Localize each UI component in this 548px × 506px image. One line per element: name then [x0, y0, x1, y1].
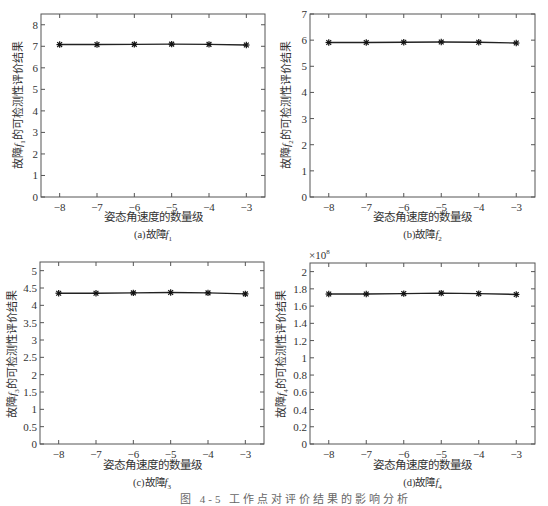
caption-d: (d)故障f4: [310, 474, 535, 491]
asterisk-marker: [513, 291, 519, 297]
y-tick-label: 1.8: [293, 283, 307, 295]
figure-caption: 图 4-5 工作点对评价结果的影响分析: [180, 490, 411, 506]
asterisk-marker: [438, 290, 444, 296]
y-tick-label: 0: [302, 438, 308, 450]
y-axis-label-d: 故障f4的可检测性评价结果: [272, 254, 290, 454]
y-tick-label: 0.2: [293, 421, 307, 433]
y-tick-label: 1.6: [293, 300, 307, 312]
asterisk-marker: [363, 291, 369, 297]
y-axis-exponent-d: ×108: [309, 248, 330, 261]
y-tick-label: 0.4: [293, 404, 307, 416]
y-tick-label: 1.2: [293, 335, 307, 347]
asterisk-marker: [401, 290, 407, 296]
y-tick-label: 0.6: [293, 386, 307, 398]
asterisk-marker: [326, 291, 332, 297]
x-axis-label-d: 姿态角速度的数量级: [310, 456, 535, 472]
y-tick-label: 1.4: [293, 317, 307, 329]
y-tick-label: 0.8: [293, 369, 307, 381]
axes-frame: [310, 263, 535, 444]
asterisk-marker: [476, 290, 482, 296]
y-tick-label: 1: [302, 352, 308, 364]
y-tick-label: 2: [302, 266, 308, 278]
data-line: [329, 293, 517, 294]
